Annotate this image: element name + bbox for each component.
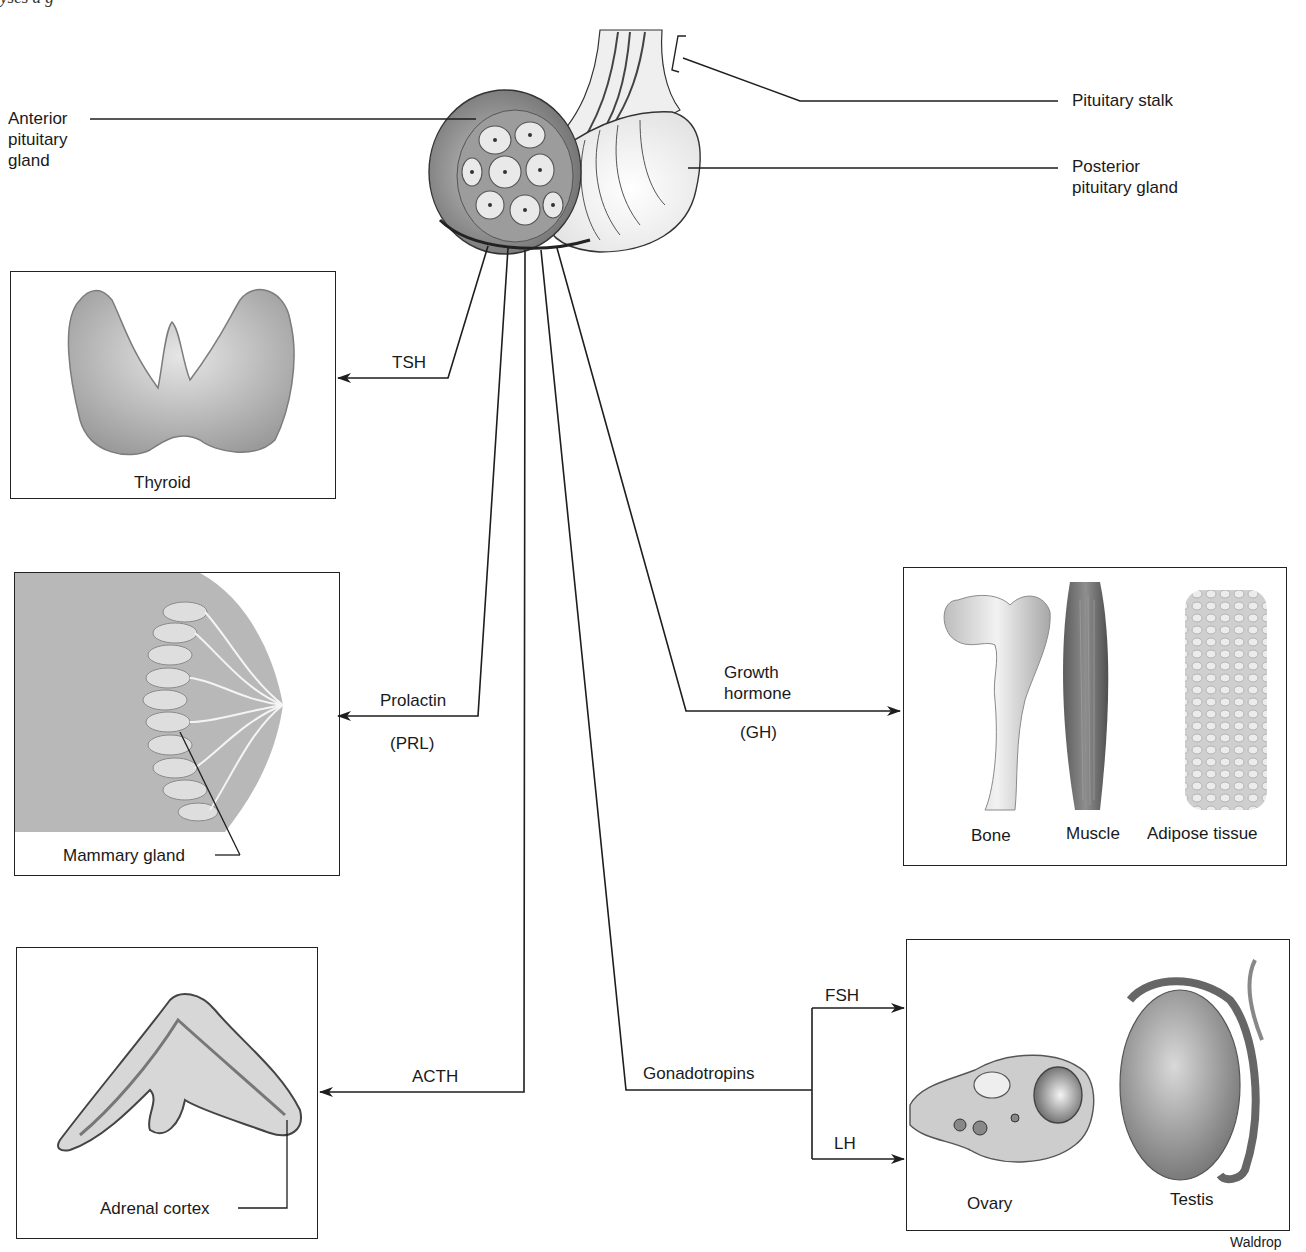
label-line: Growth (724, 662, 791, 683)
label-tsh: TSH (392, 352, 426, 373)
gonads-illustration (910, 960, 1262, 1180)
label-adipose-tissue: Adipose tissue (1147, 823, 1258, 844)
label-testis: Testis (1170, 1189, 1213, 1210)
label-line: hormone (724, 683, 791, 704)
label-prolactin: Prolactin (380, 690, 446, 711)
mammary-illustration (15, 573, 283, 855)
label-fsh: FSH (825, 985, 859, 1006)
credit-waldrop: Waldrop (1230, 1232, 1282, 1252)
label-bone: Bone (971, 825, 1011, 846)
label-line: Posterior (1072, 156, 1178, 177)
label-gonadotropins: Gonadotropins (643, 1063, 755, 1084)
label-line: gland (8, 150, 68, 171)
label-growth-hormone: Growth hormone (724, 662, 791, 704)
label-line: pituitary (8, 129, 68, 150)
label-muscle: Muscle (1066, 823, 1120, 844)
label-mammary-gland: Mammary gland (63, 845, 185, 866)
label-gh-abbr: (GH) (740, 722, 777, 743)
label-anterior-pituitary: Anterior pituitary gland (8, 108, 68, 171)
pituitary-illustration (429, 30, 700, 254)
thyroid-illustration (68, 290, 294, 455)
label-line: Anterior (8, 108, 68, 129)
label-lh: LH (834, 1133, 856, 1154)
growth-targets-illustration (944, 582, 1267, 810)
label-line: pituitary gland (1072, 177, 1178, 198)
label-adrenal-cortex: Adrenal cortex (100, 1198, 210, 1219)
label-posterior-pituitary: Posterior pituitary gland (1072, 156, 1178, 198)
label-prolactin-abbr: (PRL) (390, 733, 434, 754)
adrenal-illustration (58, 994, 301, 1208)
label-pituitary-stalk: Pituitary stalk (1072, 90, 1173, 111)
label-thyroid: Thyroid (134, 472, 191, 493)
label-acth: ACTH (412, 1066, 458, 1087)
label-ovary: Ovary (967, 1193, 1012, 1214)
